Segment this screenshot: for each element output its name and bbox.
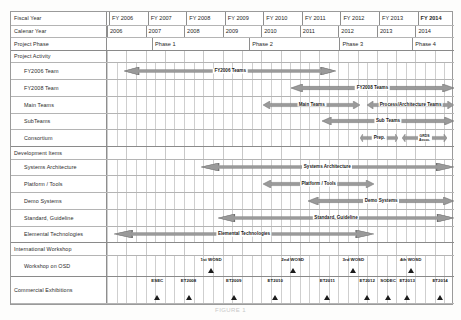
row-label: FY2006 Team bbox=[11, 63, 107, 79]
development-row: Platform / ToolsPlatform / Tools bbox=[11, 176, 454, 193]
project-roadmap-gantt-chart: Fiscal YearFY 2006FY 2007FY 2008FY 2009F… bbox=[10, 11, 453, 305]
milestone-label: ET2010 bbox=[268, 278, 283, 283]
row-label: Main Teams bbox=[11, 97, 107, 113]
gantt-bar-label: FY2006 Teams bbox=[213, 69, 248, 74]
phase-cell: Phase 4 bbox=[412, 38, 454, 50]
development-row: Demo SystemsDemo Systems bbox=[11, 193, 454, 210]
gantt-bar-label: Sub Teams bbox=[374, 119, 401, 124]
calendar-year-cell: 2014 bbox=[415, 26, 454, 38]
row-label: Workshop on OSD bbox=[11, 256, 107, 276]
grid-lines bbox=[107, 147, 454, 159]
row-label: FY2008 Team bbox=[11, 80, 107, 96]
timeline-cell: FY 2006FY 2007FY 2008FY 2009FY 2010FY 20… bbox=[107, 12, 454, 25]
development-row: Standard, GuidelineStandard, Guideline bbox=[11, 210, 454, 227]
row-label: Standard, Guideline bbox=[11, 210, 107, 226]
milestone-marker-icon bbox=[385, 295, 391, 300]
milestone-label: ET2014 bbox=[432, 278, 447, 283]
timeline-cell: 200620072008200920102011201220132014 bbox=[107, 26, 454, 38]
timeline-cell: Phase 1Phase 2Phase 3Phase 4 bbox=[107, 38, 454, 50]
milestone-marker-icon bbox=[350, 268, 356, 273]
timeline-cell: FY2008 Teams bbox=[107, 80, 454, 96]
milestone-marker-icon bbox=[408, 268, 414, 273]
milestone-marker-icon bbox=[186, 295, 192, 300]
milestone-label: 4th WOSD bbox=[400, 257, 421, 262]
row-label: Platform / Tools bbox=[11, 176, 107, 192]
gantt-bar-label: FY2008 Teams bbox=[355, 85, 390, 90]
row-label: Development Items bbox=[11, 147, 107, 159]
fiscal-year-cell: FY 2008 bbox=[186, 12, 225, 25]
development-row: Elemental TechnologiesElemental Technolo… bbox=[11, 227, 454, 244]
timeline-cell: ESECET2008ET2009ET2010ET2011ET2012SODECE… bbox=[107, 277, 454, 303]
milestone-label: ET2012 bbox=[360, 278, 375, 283]
milestone-marker-icon bbox=[404, 295, 410, 300]
row-label: Consortium bbox=[11, 130, 107, 146]
calendar-year-cell: 2008 bbox=[184, 26, 223, 38]
row-label: Systems Architecture bbox=[11, 160, 107, 176]
gantt-bar-label: Main Teams bbox=[297, 102, 326, 107]
fiscal-year-cell: FY 2010 bbox=[263, 12, 302, 25]
gantt-bar-label: Elemental Technologies bbox=[216, 232, 271, 237]
milestone-label: ESEC bbox=[151, 278, 163, 283]
milestone-label: ET2009 bbox=[226, 278, 241, 283]
timeline-cell: Systems Architecture bbox=[107, 160, 454, 176]
project-phase-header: Project PhasePhase 1Phase 2Phase 3Phase … bbox=[11, 38, 454, 51]
timeline-cell bbox=[107, 243, 454, 255]
milestone-label: 1st WOSD bbox=[200, 257, 221, 262]
workshop-row: Workshop on OSD1st WOSD2nd WOSD3rd WOSD4… bbox=[11, 256, 454, 277]
section-development-items: Development Items bbox=[11, 147, 454, 160]
row-label: Elemental Technologies bbox=[11, 227, 107, 243]
calendar-year-cell: 2013 bbox=[377, 26, 416, 38]
calendar-year-row-label: Calenar Year bbox=[11, 26, 107, 38]
milestone-label: 2nd WOSD bbox=[281, 257, 304, 262]
fiscal-year-cell: FY 2011 bbox=[302, 12, 341, 25]
phase-cell: Phase 2 bbox=[249, 38, 339, 50]
grid-lines bbox=[107, 243, 454, 255]
timeline-cell bbox=[107, 51, 454, 63]
milestone-label: ET2011 bbox=[320, 278, 335, 283]
milestone-marker-icon bbox=[208, 268, 214, 273]
timeline-cell: FY2006 Teams bbox=[107, 63, 454, 79]
fiscal-year-cell: FY 2009 bbox=[225, 12, 264, 25]
activity-row: SubTeamsSub Teams bbox=[11, 114, 454, 131]
activity-row: ConsortiumPrep.GRDSAssoc. bbox=[11, 130, 454, 147]
fiscal-year-row-label: Fiscal Year bbox=[11, 12, 107, 25]
calendar-year-header: Calenar Year2006200720082009201020112012… bbox=[11, 26, 454, 39]
activity-row: Main TeamsMain TeamsProcess/Architecture… bbox=[11, 97, 454, 114]
fiscal-year-cell: FY 2007 bbox=[148, 12, 187, 25]
milestone-label: SODEC bbox=[380, 278, 396, 283]
gantt-bar-label: Platform / Tools bbox=[300, 182, 337, 187]
milestone-marker-icon bbox=[290, 268, 296, 273]
fiscal-year-cell: FY 2012 bbox=[340, 12, 379, 25]
gantt-bar-label: Process/Architecture Teams bbox=[378, 102, 443, 107]
gantt-bar-label: Standard, Guideline bbox=[313, 215, 359, 220]
calendar-year-cell: 2011 bbox=[300, 26, 339, 38]
timeline-cell: Elemental Technologies bbox=[107, 227, 454, 243]
project-phase-row-label: Project Phase bbox=[11, 38, 107, 50]
section-international-workshop: International Workshop bbox=[11, 243, 454, 256]
milestone-marker-icon bbox=[324, 295, 330, 300]
timeline-cell: Standard, Guideline bbox=[107, 210, 454, 226]
timeline-cell: Main TeamsProcess/Architecture Teams bbox=[107, 97, 454, 113]
milestone-marker-icon bbox=[437, 295, 443, 300]
activity-row: FY2006 TeamFY2006 Teams bbox=[11, 63, 454, 80]
gantt-bar-label: Prep. bbox=[372, 136, 387, 141]
scanned-sheet: Fiscal YearFY 2006FY 2007FY 2008FY 2009F… bbox=[0, 0, 461, 320]
calendar-year-cell: 2012 bbox=[338, 26, 377, 38]
section-project-activity: Project Activity bbox=[11, 51, 454, 64]
gantt-bar-label: Demo Systems bbox=[363, 199, 399, 204]
fiscal-year-cell: FY 2014 bbox=[418, 12, 457, 25]
phase-cell: Phase 1 bbox=[152, 38, 249, 50]
milestone-marker-icon bbox=[272, 295, 278, 300]
milestone-marker-icon bbox=[364, 295, 370, 300]
timeline-cell: Prep.GRDSAssoc. bbox=[107, 130, 454, 146]
timeline-cell: Platform / Tools bbox=[107, 176, 454, 192]
milestone-marker-icon bbox=[231, 295, 237, 300]
fiscal-year-header: Fiscal YearFY 2006FY 2007FY 2008FY 2009F… bbox=[11, 12, 454, 26]
phase-cell: Phase 3 bbox=[339, 38, 412, 50]
fiscal-year-cell: FY 2006 bbox=[109, 12, 148, 25]
timeline-cell: 1st WOSD2nd WOSD3rd WOSD4th WOSD bbox=[107, 256, 454, 276]
row-label: International Workshop bbox=[11, 243, 107, 255]
row-label: Project Activity bbox=[11, 51, 107, 63]
activity-row: FY2008 TeamFY2008 Teams bbox=[11, 80, 454, 97]
calendar-year-cell: 2006 bbox=[107, 26, 146, 38]
